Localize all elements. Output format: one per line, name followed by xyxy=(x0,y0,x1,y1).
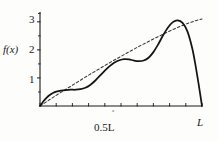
x-tick-label-end: L xyxy=(197,117,203,128)
y-tick-label-3: 3 xyxy=(29,14,35,25)
x-axis-variable-marker: x xyxy=(112,108,114,113)
figure-container: f(x) 3 2 1 x 0.5L L xyxy=(0,0,218,141)
y-tick-label-1: 1 xyxy=(29,74,35,85)
series-fx-curve xyxy=(40,20,202,106)
series-reference-trend-line xyxy=(40,19,202,106)
x-tick-label-mid: 0.5L xyxy=(94,122,114,133)
y-tick-label-2: 2 xyxy=(29,44,35,55)
y-axis-label: f(x) xyxy=(3,44,18,55)
